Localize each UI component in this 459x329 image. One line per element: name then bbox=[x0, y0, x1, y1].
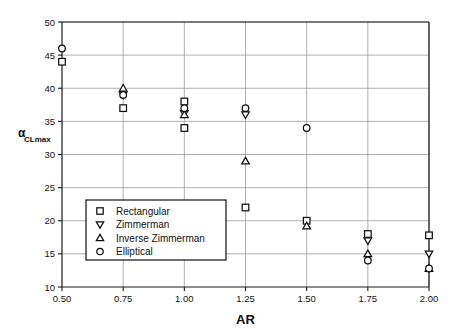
data-point-inverse-zimmerman bbox=[364, 250, 372, 257]
y-axis-tick-label: 40 bbox=[44, 83, 55, 94]
data-point-elliptical bbox=[303, 125, 310, 132]
data-point-elliptical bbox=[181, 105, 188, 112]
legend-marker-square bbox=[97, 208, 103, 214]
data-point-zimmerman bbox=[242, 112, 250, 119]
x-axis-tick-label: 1.75 bbox=[359, 293, 378, 304]
y-axis-tick-label: 25 bbox=[44, 182, 55, 193]
x-axis-tick-label: 1.50 bbox=[297, 293, 316, 304]
y-axis-tick-label: 20 bbox=[44, 215, 55, 226]
data-point-rectangular bbox=[426, 232, 433, 239]
y-axis-tick-label: 50 bbox=[44, 17, 55, 28]
y-axis-title-subscript: CLmax bbox=[24, 135, 51, 144]
data-point-elliptical bbox=[120, 92, 127, 99]
legend-label: Rectangular bbox=[116, 206, 171, 217]
y-axis-tick-label: 45 bbox=[44, 50, 55, 61]
data-point-inverse-zimmerman bbox=[119, 84, 127, 91]
x-axis-title: AR bbox=[236, 312, 255, 327]
data-point-zimmerman bbox=[425, 251, 433, 258]
legend-marker-circle bbox=[97, 248, 103, 254]
data-point-rectangular bbox=[181, 98, 188, 105]
legend-label: Elliptical bbox=[116, 246, 153, 257]
y-axis-tick-label: 15 bbox=[44, 248, 55, 259]
data-point-rectangular bbox=[120, 105, 127, 112]
data-point-elliptical bbox=[365, 257, 372, 264]
data-point-zimmerman bbox=[364, 238, 372, 245]
x-axis-tick-label: 0.50 bbox=[53, 293, 72, 304]
chart-figure: 1015202530354045500.500.751.001.251.501.… bbox=[0, 0, 459, 329]
data-point-rectangular bbox=[59, 58, 66, 65]
x-axis-tick-label: 1.00 bbox=[175, 293, 194, 304]
legend-label: Zimmerman bbox=[116, 219, 169, 230]
data-point-elliptical bbox=[242, 105, 249, 112]
y-axis-tick-label: 30 bbox=[44, 149, 55, 160]
data-point-elliptical bbox=[59, 45, 66, 52]
data-point-rectangular bbox=[365, 231, 372, 238]
x-axis-tick-label: 2.00 bbox=[420, 293, 439, 304]
scatter-plot: 1015202530354045500.500.751.001.251.501.… bbox=[0, 0, 459, 329]
data-point-elliptical bbox=[426, 265, 433, 272]
y-axis-tick-label: 35 bbox=[44, 116, 55, 127]
legend-label: Inverse Zimmerman bbox=[116, 233, 205, 244]
data-point-inverse-zimmerman bbox=[242, 157, 250, 164]
data-point-rectangular bbox=[242, 204, 249, 211]
data-point-rectangular-extra bbox=[181, 125, 188, 132]
y-axis-tick-label: 10 bbox=[44, 282, 55, 293]
x-axis-tick-label: 0.75 bbox=[114, 293, 133, 304]
x-axis-tick-label: 1.25 bbox=[236, 293, 255, 304]
